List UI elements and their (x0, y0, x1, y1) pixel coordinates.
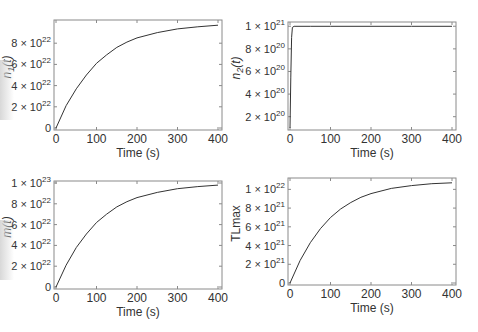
y-tick-label: 1 × 1022 (245, 181, 285, 195)
plot-frame (288, 178, 456, 285)
x-tick-label: 0 (287, 287, 294, 301)
x-tick-label: 400 (442, 287, 462, 301)
x-tick-label: 200 (361, 287, 381, 301)
y-tick-label: 2 × 1021 (245, 256, 285, 270)
y-tick-label: 8 × 1021 (245, 200, 285, 214)
x-axis-label: Time (s) (350, 301, 394, 315)
y-tick-label: 4 × 1021 (245, 238, 285, 252)
data-line (290, 183, 452, 283)
y-tick-label: 0 (279, 277, 285, 289)
scan-shadow (0, 220, 14, 280)
y-tick-label: 6 × 1021 (245, 219, 285, 233)
x-tick-label: 100 (320, 287, 340, 301)
tlmax-plot: 0100200300400Time (s)02 × 10214 × 10216 … (0, 0, 478, 332)
x-tick-label: 300 (401, 287, 421, 301)
scan-shadow (0, 60, 14, 120)
y-axis-label: TLmax (229, 205, 243, 242)
